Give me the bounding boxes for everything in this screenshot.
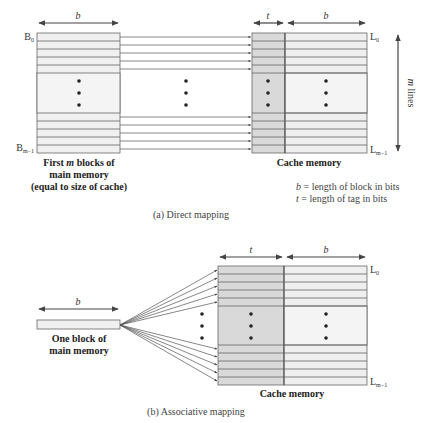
ellipsis-dot — [200, 312, 204, 316]
m-lines-dimension: m lines — [398, 35, 417, 151]
block-width-dimension: b — [39, 296, 118, 309]
ellipsis-dot — [184, 79, 188, 83]
cache-memory-caption: Cache memory — [277, 157, 342, 168]
line-l0-label: L0 — [370, 31, 379, 43]
direct-mapping-section: b B0 Bm−1 — [16, 10, 417, 221]
assoc-cache-data-width-dimension: b — [287, 244, 365, 257]
assoc-line-l0-label: L0 — [370, 264, 379, 276]
associative-mapping-caption: (b) Associative mapping — [147, 406, 245, 418]
svg-text:m lines: m lines — [406, 79, 417, 108]
main-memory-width-dimension: b — [39, 10, 118, 23]
block-b0-label: B0 — [24, 31, 34, 43]
cache-data-width-dimension: b — [288, 10, 365, 23]
ellipsis-dot — [200, 324, 204, 328]
direct-cache-lines — [252, 33, 367, 153]
ellipsis-dot — [184, 91, 188, 95]
svg-text:t: t — [267, 10, 270, 21]
single-memory-block — [37, 320, 120, 329]
direct-mapping-caption: (a) Direct mapping — [153, 209, 229, 221]
legend-b: b = length of block in bits — [296, 181, 400, 192]
main-memory-caption-3: (equal to size of cache) — [31, 181, 127, 193]
svg-text:b: b — [324, 10, 329, 21]
associative-mapping-section: b One block of main memory t b — [37, 244, 387, 418]
block-caption-2: main memory — [49, 345, 109, 356]
cache-tag-width-dimension: t — [254, 10, 283, 23]
main-memory-width-label: b — [76, 10, 81, 21]
main-memory-caption-2: main memory — [49, 169, 109, 180]
ellipsis-dot — [200, 336, 204, 340]
main-memory-caption-1: First m blocks of — [43, 157, 115, 168]
ellipsis-dot — [184, 103, 188, 107]
assoc-cache-caption: Cache memory — [260, 388, 325, 399]
line-lm1-label: Lm−1 — [370, 144, 387, 156]
svg-text:b: b — [76, 296, 81, 307]
block-bm1-label: Bm−1 — [16, 142, 34, 154]
svg-text:b: b — [324, 244, 329, 255]
main-memory-blocks — [37, 33, 120, 153]
ellipsis-dot — [77, 79, 81, 83]
svg-text:t: t — [250, 244, 253, 255]
assoc-line-lm1-label: Lm−1 — [370, 376, 387, 388]
ellipsis-dot — [77, 91, 81, 95]
ellipsis-dot — [77, 103, 81, 107]
assoc-cache-tag-width-dimension: t — [220, 244, 282, 257]
block-caption-1: One block of — [52, 333, 107, 344]
cache-mapping-diagram: b B0 Bm−1 — [0, 0, 422, 423]
legend-t: t = length of tag in bits — [296, 193, 387, 204]
associative-cache-lines — [218, 266, 367, 385]
